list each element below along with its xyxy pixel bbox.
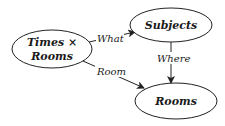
node-times-rooms-label-line1: Times × — [27, 36, 77, 49]
edge-what-label: What — [97, 33, 125, 44]
diagram-canvas: What Room Where Times × Rooms Subjects R… — [0, 0, 225, 126]
edge-where-label: Where — [157, 53, 190, 64]
node-rooms: Rooms — [135, 83, 217, 119]
edge-where: Where — [154, 42, 190, 83]
node-subjects: Subjects — [130, 8, 212, 42]
edge-room-label: Room — [96, 66, 126, 77]
node-subjects-label: Subjects — [145, 19, 198, 32]
node-rooms-label: Rooms — [154, 95, 197, 108]
node-times-rooms: Times × Rooms — [12, 30, 92, 68]
edge-room: Room — [83, 61, 144, 88]
node-times-rooms-label-line2: Rooms — [30, 50, 73, 63]
edge-what: What — [89, 32, 135, 44]
